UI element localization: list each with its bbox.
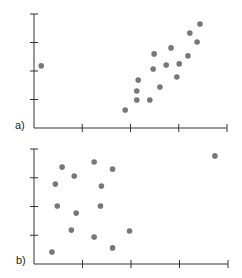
- data-point: [53, 181, 59, 187]
- data-point: [69, 227, 75, 233]
- scatter-plot-b: [0, 0, 242, 278]
- data-point: [49, 249, 55, 255]
- data-point: [73, 210, 79, 216]
- data-point: [110, 245, 116, 251]
- data-point: [99, 183, 105, 189]
- data-point: [91, 159, 97, 165]
- data-point: [54, 203, 60, 209]
- data-point: [98, 203, 104, 209]
- data-point: [127, 228, 133, 234]
- scatter-panel-b: b): [0, 0, 242, 278]
- data-point: [212, 153, 218, 159]
- data-point: [71, 173, 77, 179]
- data-point: [91, 234, 97, 240]
- data-point: [110, 166, 116, 172]
- panel-label-b: b): [16, 254, 26, 266]
- data-point: [59, 164, 65, 170]
